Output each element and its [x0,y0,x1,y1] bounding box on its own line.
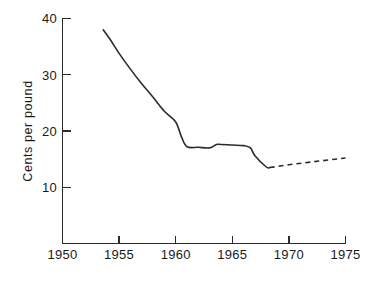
x-tick-label-1950: 1950 [47,247,77,262]
x-tick-label-1975: 1975 [330,247,360,262]
line-chart: 40 30 20 10 1950 1955 1960 1965 1970 197… [0,0,374,283]
x-tick-label-1955: 1955 [104,247,134,262]
x-tick-label-1960: 1960 [161,247,191,262]
x-tick-label-1965: 1965 [217,247,247,262]
chart-figure: 40 30 20 10 1950 1955 1960 1965 1970 197… [0,0,374,283]
y-tick-label-30: 30 [42,68,57,83]
y-tick-label-10: 10 [42,180,57,195]
y-tick-label-20: 20 [42,124,57,139]
x-tick-label-1970: 1970 [274,247,304,262]
series-line-projected [270,158,346,168]
y-axis-title: Cents per pound [21,80,35,181]
series-line-observed [103,30,269,168]
y-tick-label-40: 40 [42,11,57,26]
